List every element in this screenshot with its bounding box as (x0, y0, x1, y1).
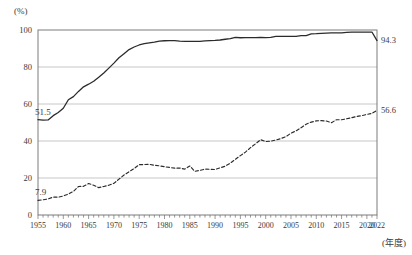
y-axis-tick-100: 100 (6, 25, 32, 35)
dashed-series-start-value-label: 7.9 (35, 187, 46, 197)
y-axis-tick-40: 40 (6, 136, 32, 146)
x-axis-tick-1985: 1985 (182, 221, 198, 230)
x-axis-tick-2000: 2000 (258, 221, 274, 230)
y-axis-tick-80: 80 (6, 62, 32, 72)
x-axis-tick-2010: 2010 (308, 221, 324, 230)
x-axis-tick-1980: 1980 (156, 221, 172, 230)
x-axis-tick-2022: 2022 (369, 221, 385, 230)
y-axis-tick-20: 20 (6, 173, 32, 183)
y-axis-tick-60: 60 (6, 99, 32, 109)
y-axis-tick-0: 0 (6, 210, 32, 220)
x-axis-tick-1965: 1965 (81, 221, 97, 230)
x-axis-tick-2005: 2005 (283, 221, 299, 230)
x-axis-ticks (38, 215, 377, 219)
data-series-layer (38, 32, 377, 200)
dashed-series-end-value-label: 56.6 (381, 105, 396, 115)
x-axis-tick-1970: 1970 (106, 221, 122, 230)
x-axis-tick-1990: 1990 (207, 221, 223, 230)
solid-series-end-value-label: 94.3 (381, 35, 396, 45)
line-chart-canvas (0, 0, 412, 255)
x-axis-tick-1955: 1955 (30, 221, 46, 230)
x-axis-tick-1975: 1975 (131, 221, 147, 230)
chart-figure: (%) (年度) 020406080100 195519601965197019… (0, 0, 412, 255)
x-axis-tick-1960: 1960 (55, 221, 71, 230)
x-axis-tick-2015: 2015 (334, 221, 350, 230)
y-axis-unit-label: (%) (14, 6, 28, 16)
solid-series-start-value-label: 51.5 (35, 107, 51, 117)
plot-frame (38, 30, 377, 215)
x-axis-tick-1995: 1995 (232, 221, 248, 230)
x-axis-unit-label: (年度) (382, 236, 406, 249)
